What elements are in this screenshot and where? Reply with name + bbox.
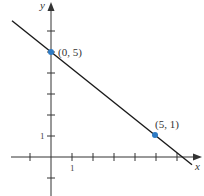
point-0-5 [48, 49, 54, 55]
point-5-1 [152, 132, 158, 138]
point-label-0-5: (0, 5) [58, 46, 82, 59]
point-label-5-1: (5, 1) [155, 118, 179, 131]
y-axis-arrow-icon [48, 2, 55, 11]
y-tick-label-1: 1 [40, 131, 45, 141]
y-axis-label: y [39, 0, 45, 11]
coordinate-plane: 1 1 x y (0, 5) (5, 1) [0, 0, 204, 196]
x-tick-label-1: 1 [70, 163, 75, 173]
graph-line [12, 21, 192, 165]
x-axis-label: x [194, 160, 200, 172]
